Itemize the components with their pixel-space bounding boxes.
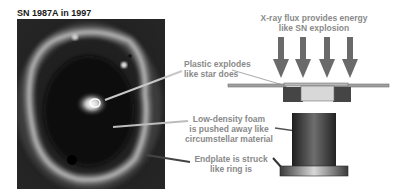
target-package: [228, 83, 389, 102]
label-endplate: Endplate is struck like ring is: [188, 154, 274, 174]
label-foam-line3: circumstellar material: [183, 134, 275, 144]
label-endplate-line1: Endplate is struck: [188, 154, 274, 164]
xray-caption: X-ray flux provides energy like SN explo…: [256, 13, 372, 33]
label-plastic-line2: like star does: [184, 69, 251, 79]
arrow-down-icon: [273, 37, 289, 78]
endplate: [280, 166, 348, 176]
leader-line-endplate: [146, 155, 190, 162]
label-plastic: Plastic explodes like star does: [184, 59, 251, 79]
label-foam: Low-density foam is pushed away like cir…: [183, 114, 275, 144]
label-plastic-line1: Plastic explodes: [184, 59, 251, 69]
xray-arrows: [273, 37, 358, 78]
leader-line-foam: [113, 121, 188, 127]
leader-line-plastic: [105, 71, 182, 100]
foam-cylinder: [292, 113, 336, 167]
label-foam-line1: Low-density foam: [183, 114, 275, 124]
xray-caption-line1: X-ray flux provides energy: [256, 13, 372, 23]
xray-caption-line2: like SN explosion: [256, 23, 372, 33]
arrow-down-icon: [319, 37, 335, 78]
arrow-down-icon: [342, 37, 358, 78]
label-endplate-line2: like ring is: [188, 164, 274, 174]
arrow-down-icon: [295, 37, 311, 78]
label-foam-line2: is pushed away like: [183, 124, 275, 134]
